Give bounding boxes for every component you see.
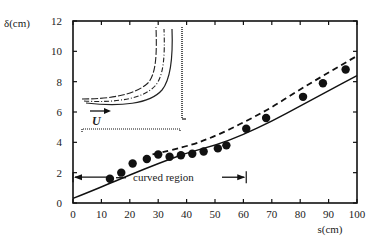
plot-border [73,21,357,203]
data-point [199,147,207,155]
data-point [299,93,307,101]
axis-ticks [73,21,357,203]
inset-schematic: U [82,27,186,132]
y-tick-label: 8 [57,76,63,88]
data-point [242,124,250,132]
solid-curve [73,76,357,199]
data-point [214,144,222,152]
y-tick-label: 2 [57,167,63,179]
data-point [128,159,136,167]
chart: 0102030405060708090100024681012 U curved… [0,0,380,243]
y-tick-label: 4 [57,136,63,148]
data-point [262,114,270,122]
data-point [154,150,162,158]
x-tick-label: 70 [266,208,278,220]
y-axis-label: δ(cm) [4,17,30,30]
flow-velocity-label: U [92,114,102,128]
data-point [165,153,173,161]
arrow-right-head-icon [237,174,245,180]
x-tick-label: 30 [153,208,165,220]
y-tick-label: 10 [51,45,63,57]
x-tick-label: 90 [323,208,335,220]
y-tick-label: 6 [57,106,63,118]
data-point [319,79,327,87]
x-tick-label: 60 [238,208,250,220]
data-point [188,150,196,158]
inset-contour-2 [84,29,164,101]
x-axis-label: s(cm) [317,223,342,236]
inset-bottom-wall [82,129,180,132]
x-tick-label: 80 [295,208,307,220]
annotations: curved region [73,171,246,183]
x-tick-label: 50 [210,208,222,220]
data-points [106,65,350,183]
data-point [341,65,349,73]
inset-contour-1 [82,27,156,99]
y-tick-label: 0 [57,197,63,209]
dashed-curve [153,56,357,155]
data-point [117,168,125,176]
y-tick-label: 12 [51,15,62,27]
plot-frame [73,21,357,203]
data-point [143,155,151,163]
curves [73,56,357,199]
flow-arrow-head-icon [104,108,111,114]
data-point [222,141,230,149]
arrow-left-head-icon [74,174,82,180]
data-point [106,175,114,183]
curved-region-label: curved region [133,171,194,183]
x-tick-label: 0 [70,208,76,220]
x-tick-label: 10 [96,208,108,220]
data-point [177,151,185,159]
x-tick-label: 20 [124,208,136,220]
x-tick-label: 40 [181,208,193,220]
x-tick-label: 100 [349,208,366,220]
